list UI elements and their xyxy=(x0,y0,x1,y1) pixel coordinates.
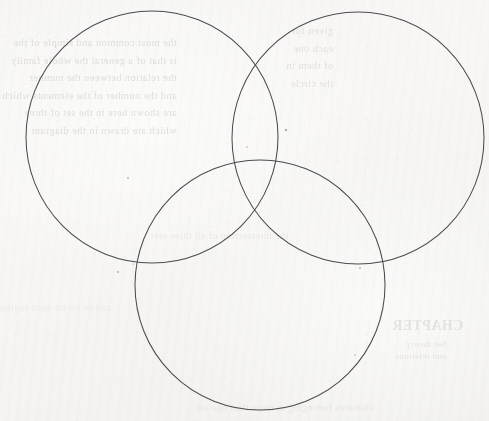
venn-circle-top-right[interactable] xyxy=(232,12,484,264)
venn-circle-bottom[interactable] xyxy=(135,160,385,410)
ink-speck xyxy=(127,177,129,179)
ink-speck xyxy=(246,146,248,148)
ink-speck xyxy=(117,271,119,273)
venn-diagram xyxy=(0,0,489,421)
ink-speck xyxy=(359,267,361,269)
ink-speck xyxy=(132,263,133,264)
venn-circle-top-left[interactable] xyxy=(26,11,278,263)
scanned-page: the most common and simple of the is tha… xyxy=(0,0,489,421)
ink-speck-layer xyxy=(117,129,361,356)
ink-speck xyxy=(354,354,356,356)
ink-speck xyxy=(285,129,288,132)
